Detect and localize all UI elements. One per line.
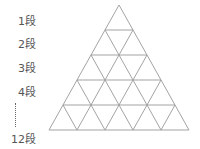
- triangle-grid: [0, 0, 200, 149]
